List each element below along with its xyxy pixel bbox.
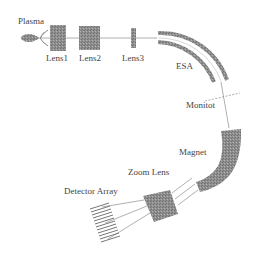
zoom-lens-label: Zoom Lens — [128, 167, 170, 177]
lens2-label: Lens2 — [79, 53, 101, 63]
zoom-lens — [143, 190, 178, 222]
esa-magnet-beam — [221, 82, 229, 128]
lens3-label: Lens3 — [122, 53, 144, 63]
mass-spectrometer-diagram: Plasma Lens1 Lens2 Lens3 ESA Monitot Mag… — [0, 0, 256, 255]
esa-label: ESA — [176, 61, 194, 71]
magnet-zoom-beams — [172, 178, 198, 205]
electrostatic-analyzer — [158, 33, 227, 82]
detector-array-label: Detector Array — [64, 186, 118, 196]
lens3 — [131, 28, 136, 48]
magnet — [196, 129, 241, 192]
detector-array — [90, 203, 120, 242]
lens1 — [50, 25, 66, 51]
monitor-label: Monitot — [186, 100, 216, 110]
magnet-label: Magnet — [179, 147, 207, 157]
plasma-label: Plasma — [18, 16, 44, 26]
lens2 — [79, 26, 100, 50]
lens1-label: Lens1 — [46, 53, 68, 63]
